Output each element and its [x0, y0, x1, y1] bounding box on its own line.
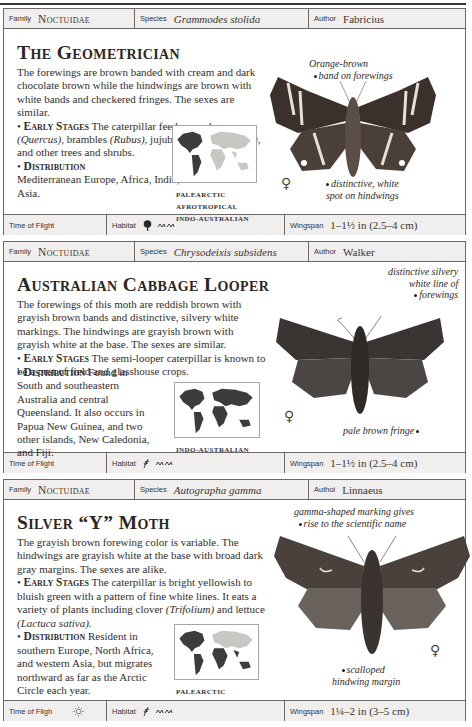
habitat-label: Habitat: [112, 221, 136, 230]
species-cell: Species Chrysodeixis subsidens: [135, 242, 309, 261]
description: The grayish brown forewing color is vari…: [17, 536, 263, 575]
author-value: Walker: [343, 246, 375, 258]
species-cell: Species Autographa gamma: [135, 480, 309, 499]
wingspan-label: Wingspan: [290, 707, 323, 716]
distribution-map: [172, 125, 257, 183]
moth-illustration-geometrician: [268, 75, 438, 187]
common-name-title: Silver “Y” Moth: [17, 512, 170, 534]
early-stages-bullet: •: [17, 352, 24, 364]
grassland-icon: [157, 222, 175, 228]
plant-name: (Rubus): [110, 133, 145, 145]
distribution-bullet: •: [17, 630, 24, 642]
moth-illustration-silver-y: [272, 532, 472, 662]
female-symbol: ♀: [281, 175, 291, 191]
grassland-icon: [155, 708, 173, 714]
author-label: Author: [314, 14, 336, 23]
distribution-text-block: (Lactuca sativa). • Distribution Residen…: [17, 617, 157, 697]
distribution-map: [174, 624, 259, 680]
common-name-title: The Geometrician: [17, 42, 180, 64]
realm-label: INDO-AUSTRALIAN: [176, 213, 249, 225]
zoogeographic-realms: PALEARCTIC AFROTROPICAL INDO-AUSTRALIAN: [176, 189, 249, 225]
common-name-title: Australian Cabbage Looper: [17, 274, 269, 296]
wingspan-cell: Wingspan 1¼–2 in (3–5 cm): [285, 701, 465, 721]
species-label: Species: [140, 247, 167, 256]
realm-label: PALEARCTIC: [176, 686, 226, 698]
plant-name: (Trifolium): [166, 603, 214, 615]
author-cell: Authoi Linnaeus: [309, 480, 465, 499]
family-value: Noctuidae: [38, 13, 90, 25]
species-label: Species: [140, 14, 167, 23]
moon-icon: [59, 706, 68, 717]
species-entry-silver-y-moth: Family Noctuidae Species Autographa gamm…: [3, 479, 466, 721]
annotation-line: pale brown fringe: [343, 425, 414, 436]
wingspan-value: 1¼–2 in (3–5 cm): [330, 705, 409, 717]
entry-footer: Time of Fligh Habitat Wingspan 1¼–2 in (…: [4, 700, 465, 721]
world-map-icon: [173, 126, 256, 182]
annotation-line: spot on hindwings: [324, 190, 399, 202]
distribution-text: Found in South and southeastern Australi…: [17, 366, 149, 458]
distribution-bullet: •: [17, 160, 24, 172]
moth-illustration-cabbage-looper: [274, 316, 446, 422]
world-map-icon: [175, 383, 259, 437]
entry-body: Australian Cabbage Looper The forewings …: [4, 262, 465, 452]
wingspan-label: Wingspan: [290, 459, 323, 468]
species-value: Autographa gamma: [174, 484, 262, 496]
early-stages-heading: Early Stages: [24, 352, 89, 364]
distribution-map: [174, 382, 260, 438]
early-stages-bullet: •: [17, 120, 24, 132]
habitat-label: Habitat: [112, 707, 136, 716]
zoogeographic-realms: PALEARCTIC: [176, 686, 226, 698]
early-stages-heading: Early Stages: [24, 120, 89, 132]
species-entry-geometrician: Family Noctuidae Species Grammodes stoli…: [3, 8, 466, 235]
wingspan-value: 1–1½ in (2.5–4 cm): [330, 219, 417, 231]
wingspan-cell: Wingspan 1–1½ in (2.5–4 cm): [285, 453, 465, 473]
entry-body: Silver “Y” Moth The grayish brown forewi…: [4, 500, 465, 700]
page-top-rule: [0, 3, 466, 5]
annotation-line: hindwing margin: [332, 676, 400, 688]
time-of-flight-label: Time of Flight: [9, 221, 54, 230]
annotation-line: forewings: [419, 289, 458, 300]
plant-name: (Lactuca sativa).: [17, 617, 92, 629]
wingspan-label: Wingspan: [290, 221, 323, 230]
realm-label: PALEARCTIC: [176, 189, 249, 201]
species-value: Chrysodeixis subsidens: [174, 246, 277, 258]
realm-label: AFROTROPICAL: [176, 201, 249, 213]
realm-label: INDO-AUSTRALIAN: [176, 444, 249, 456]
distribution-heading: Distribution: [24, 630, 86, 642]
author-value: Fabricius: [343, 13, 384, 25]
species-cell: Species Grammodes stolida: [135, 9, 309, 28]
wingspan-cell: Wingspan 1–1½ in (2.5–4 cm): [285, 215, 465, 235]
annotation-gamma-marking: gamma-shaped marking gives rise to the s…: [294, 506, 414, 529]
family-cell: Family Noctuidae: [4, 242, 135, 261]
time-of-flight-label: Time of Fligh: [9, 707, 52, 716]
annotation-pale-fringe: pale brown fringe: [343, 425, 421, 437]
grassland-icon: [155, 460, 173, 466]
distribution-heading: Distribution: [24, 160, 86, 172]
distribution-text-block: • Distribution Found in South and southe…: [17, 366, 152, 460]
female-symbol: ♀: [430, 642, 440, 658]
annotation-scalloped-margin: scalloped hindwing margin: [332, 664, 400, 687]
author-label: Author: [314, 247, 336, 256]
family-cell: Family Noctuidae: [4, 480, 135, 499]
habitat-cell: Habitat: [107, 701, 285, 721]
distribution-heading: Distribution: [24, 366, 86, 378]
habitat-label: Habitat: [112, 459, 136, 468]
family-value: Noctuidae: [38, 484, 90, 496]
annotation-line: band on forewings: [319, 70, 393, 81]
family-label: Family: [9, 247, 31, 256]
author-cell: Author Walker: [309, 242, 465, 261]
annotation-line: rise to the scientific name: [304, 518, 407, 529]
species-label: Species: [140, 485, 167, 494]
annotation-line: scalloped: [347, 664, 385, 675]
family-label: Family: [9, 14, 31, 23]
family-label: Family: [9, 485, 31, 494]
annotation-silvery-line: distinctive silvery white line of forewi…: [388, 266, 458, 301]
distribution-bullet: •: [17, 366, 24, 378]
annotation-line: Orange-brown: [309, 58, 393, 70]
description-text: The grayish brown forewing color is vari…: [17, 536, 269, 616]
description: The forewings are brown banded with crea…: [17, 66, 255, 118]
female-symbol: ♀: [284, 408, 294, 424]
author-value: Linnaeus: [342, 484, 382, 496]
wingspan-value: 1–1½ in (2.5–4 cm): [330, 457, 417, 469]
annotation-white-spot: distinctive, white spot on hindwings: [324, 178, 399, 201]
